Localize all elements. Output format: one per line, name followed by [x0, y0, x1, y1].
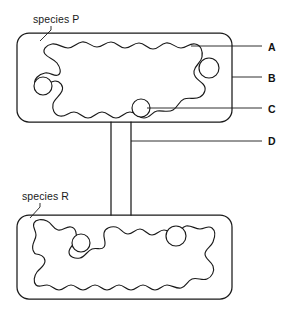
key-label-a: A: [268, 41, 276, 53]
population-blob-p: [35, 42, 206, 118]
organelle-circle: [34, 77, 52, 95]
leader-line-species-r: [30, 203, 40, 218]
diagram-canvas: species P species R A B C D: [0, 0, 288, 313]
diagram-artwork: [0, 0, 288, 313]
key-label-b: B: [268, 72, 276, 84]
organelle-circle: [166, 226, 186, 246]
organelle-circle: [199, 58, 219, 78]
species-p-label: species P: [33, 13, 79, 25]
species-r-label: species R: [22, 190, 69, 202]
key-label-c: C: [268, 103, 276, 115]
organelle-circle: [72, 234, 90, 252]
population-blob-r: [33, 220, 215, 290]
key-label-d: D: [268, 135, 276, 147]
